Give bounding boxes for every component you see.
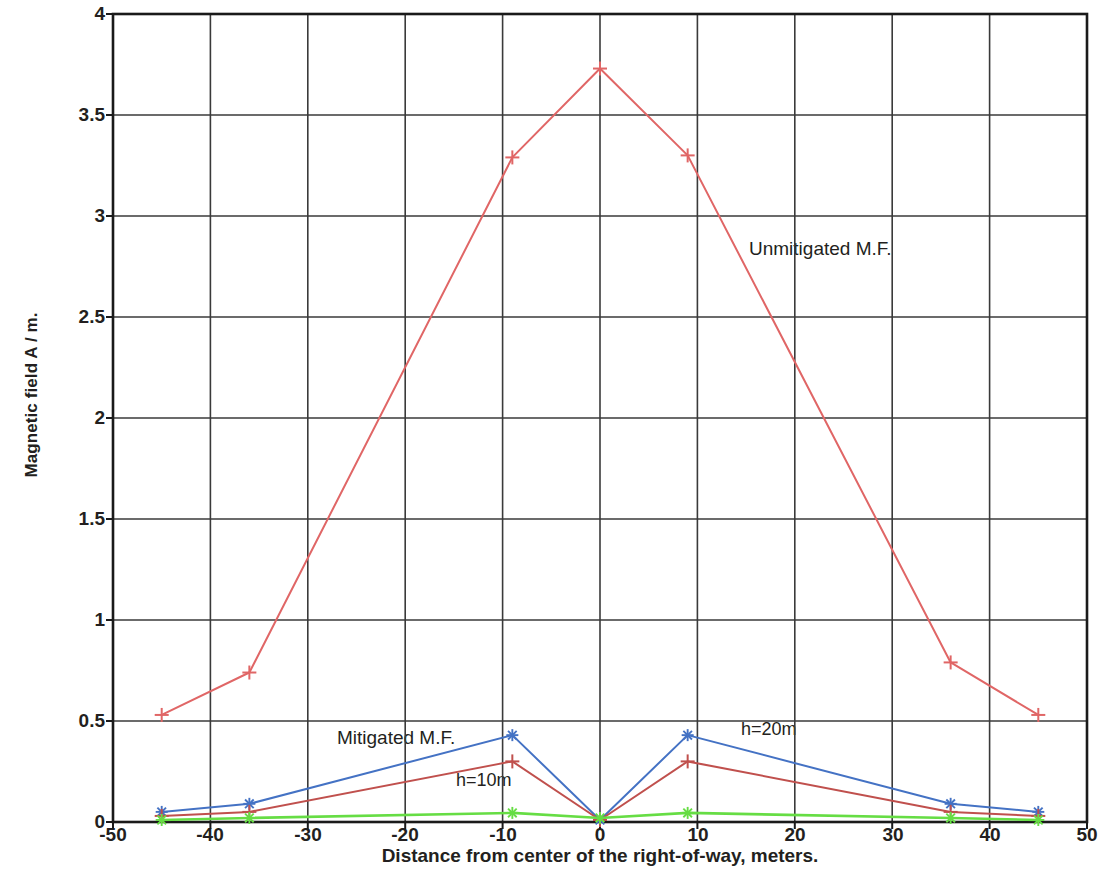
grid-lines (113, 14, 1087, 822)
magnetic-field-chart-figure: Magnetic field A / m. 4 3.5 3 2.5 2 1.5 … (0, 0, 1104, 878)
plot-canvas (0, 0, 1104, 878)
axis-ticks (106, 14, 1087, 829)
